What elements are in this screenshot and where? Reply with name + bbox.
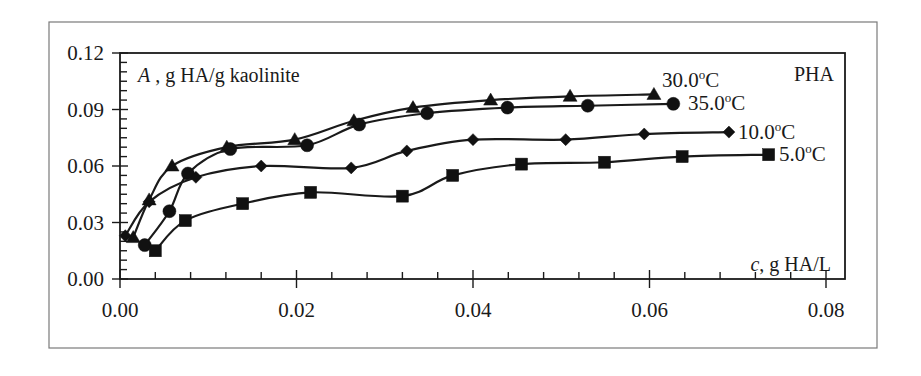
diamond-marker — [638, 128, 650, 140]
square-marker — [149, 245, 161, 257]
circle-marker — [163, 205, 176, 218]
circle-marker — [301, 139, 314, 152]
y-axis-unit: , g HA/g kaolinite — [150, 64, 300, 87]
series-label: 10.0oC — [738, 119, 795, 144]
x-axis-unit: , g HA/L — [759, 253, 831, 276]
square-marker — [237, 198, 249, 210]
diamond-marker — [345, 162, 357, 174]
y-tick-label: 0.12 — [67, 41, 104, 65]
square-marker — [763, 149, 775, 161]
y-tick-label: 0.03 — [67, 211, 104, 235]
series-circle — [138, 97, 680, 251]
square-marker — [179, 215, 191, 227]
triangle-marker — [647, 87, 661, 99]
diamond-marker — [401, 145, 413, 157]
adsorption-isotherm-chart: 0.000.030.060.090.120.000.020.040.060.08… — [0, 0, 921, 376]
series-label: 35.0oC — [688, 90, 745, 115]
y-axis-title: A , g HA/g kaolinite — [136, 64, 300, 87]
diamond-marker — [723, 126, 735, 138]
series-square — [149, 149, 774, 257]
panel-label: PHA — [794, 63, 835, 85]
circle-marker — [501, 101, 514, 114]
x-tick-label: 0.02 — [278, 298, 315, 322]
diamond-marker — [560, 134, 572, 146]
circle-marker — [224, 143, 237, 156]
plot-area-frame — [120, 53, 845, 279]
x-tick-label: 0.04 — [455, 298, 492, 322]
x-tick-label: 0.00 — [102, 298, 139, 322]
triangle-marker — [165, 159, 179, 171]
square-marker — [305, 186, 317, 198]
x-axis-title: c, g HA/L — [750, 253, 831, 276]
x-tick-label: 0.06 — [631, 298, 668, 322]
square-marker — [598, 156, 610, 168]
square-marker — [676, 151, 688, 163]
series-triangle — [126, 87, 661, 242]
circle-marker — [353, 118, 366, 131]
series-line — [145, 104, 674, 245]
y-tick-label: 0.06 — [67, 154, 104, 178]
circle-marker — [667, 97, 680, 110]
square-marker — [396, 190, 408, 202]
y-tick-label: 0.09 — [67, 98, 104, 122]
series-line — [125, 132, 729, 236]
series-diamond — [119, 126, 735, 242]
series-label: 30.0oC — [662, 67, 719, 92]
square-marker — [516, 158, 528, 170]
diamond-marker — [467, 134, 479, 146]
data-series — [119, 87, 774, 256]
y-axis-symbol: A — [136, 64, 151, 86]
y-tick-label: 0.00 — [67, 267, 104, 291]
x-axis-symbol: c — [750, 253, 759, 275]
circle-marker — [421, 107, 434, 120]
series-label: 5.0oC — [779, 141, 826, 166]
square-marker — [447, 169, 459, 181]
circle-marker — [581, 99, 594, 112]
diamond-marker — [255, 160, 267, 172]
x-tick-label: 0.08 — [808, 298, 845, 322]
series-line — [133, 94, 654, 237]
